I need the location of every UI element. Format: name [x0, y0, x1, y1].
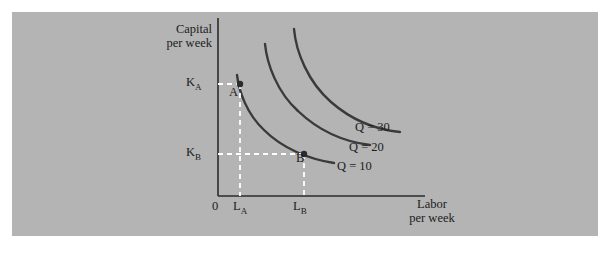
isoquant-curve-q10: [237, 75, 334, 163]
curve-label-q30: Q = 30: [355, 121, 390, 135]
x-tick-la-sub: A: [241, 206, 248, 216]
point-label-b: B: [296, 152, 304, 166]
figure-root: Capital per week Labor per week 0 LA LB …: [0, 0, 606, 255]
x-axis-title-line2: per week: [409, 211, 454, 225]
y-axis-title-line1: Capital: [176, 22, 212, 36]
x-tick-lb-sub: B: [301, 206, 307, 216]
isoquant-curve-q30: [294, 29, 400, 132]
origin-label: 0: [212, 200, 218, 214]
curve-label-q10: Q = 10: [337, 160, 372, 174]
x-axis-title-line1: Labor: [417, 197, 447, 211]
y-tick-ka-sub: A: [195, 82, 202, 92]
x-tick-label-la: LA: [233, 200, 247, 216]
y-tick-kb-base: K: [186, 145, 195, 159]
x-tick-la-base: L: [233, 199, 241, 213]
y-tick-label-kb: KB: [186, 146, 201, 162]
y-axis-title-line2: per week: [167, 36, 212, 50]
x-axis-title: Labor per week: [386, 198, 478, 225]
x-tick-label-lb: LB: [293, 200, 307, 216]
point-label-a: A: [229, 86, 238, 100]
y-tick-label-ka: KA: [186, 76, 202, 92]
x-tick-lb-base: L: [293, 199, 301, 213]
figure-panel: Capital per week Labor per week 0 LA LB …: [12, 12, 598, 236]
y-axis-title: Capital per week: [120, 23, 212, 50]
y-tick-ka-base: K: [186, 75, 195, 89]
curve-label-q20: Q = 20: [349, 141, 384, 155]
y-tick-kb-sub: B: [195, 152, 201, 162]
